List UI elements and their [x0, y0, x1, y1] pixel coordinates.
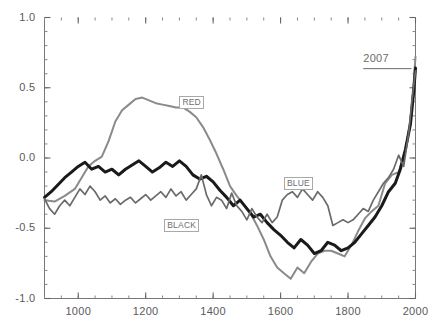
series-label-blue: BLUE — [284, 177, 313, 190]
y-axis-tick-label: -1.0 — [0, 292, 36, 304]
chart-figure: 100012001400160018002000-1.0-0.50.00.51.… — [0, 0, 433, 334]
x-axis-tick-label: 2000 — [391, 305, 433, 317]
y-axis-tick-label: 0.0 — [0, 151, 36, 163]
y-axis-tick-label: -0.5 — [0, 221, 36, 233]
x-axis-tick-label: 1800 — [323, 305, 373, 317]
x-axis-tick-label: 1200 — [121, 305, 171, 317]
series-label-black: BLACK — [164, 219, 199, 232]
series-line-black — [45, 68, 416, 253]
series-label-red: RED — [179, 96, 204, 109]
x-axis-tick-label: 1600 — [256, 305, 306, 317]
plot-canvas — [0, 0, 433, 334]
y-axis-tick-label: 0.5 — [0, 81, 36, 93]
x-axis-tick-label: 1400 — [188, 305, 238, 317]
x-axis-tick-label: 1000 — [53, 305, 103, 317]
y-axis-tick-label: 1.0 — [0, 11, 36, 23]
year-annotation: 2007 — [363, 52, 389, 64]
